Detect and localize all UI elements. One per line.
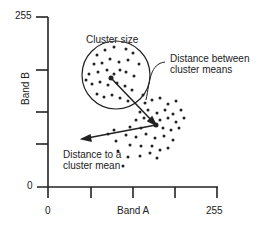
- distance-between-label-2: cluster means: [170, 64, 232, 75]
- cluster-size-circle: [82, 41, 150, 109]
- cluster-size-label: Cluster size: [86, 34, 138, 45]
- y-axis-label: Band B: [20, 72, 31, 105]
- x-axis-label: Band A: [117, 205, 149, 216]
- distance-between-label-1: Distance between: [170, 53, 250, 64]
- y-min-label: 0: [27, 180, 33, 191]
- x-max-label: 255: [206, 205, 223, 216]
- distance-to-label-1: Distance to a: [63, 149, 121, 160]
- y-max-label: 255: [15, 10, 32, 21]
- distance-to-label-2: cluster mean: [63, 160, 120, 171]
- x-min-label: 0: [45, 205, 51, 216]
- cluster-1-points: [85, 46, 145, 103]
